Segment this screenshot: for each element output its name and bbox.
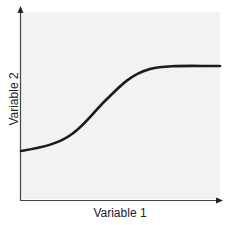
y-axis-label: Variable 2 (7, 64, 21, 134)
x-axis-label: Variable 1 (60, 206, 180, 220)
plot-area (21, 12, 220, 199)
y-axis-arrow-icon (18, 6, 24, 13)
sigmoid-chart (0, 0, 226, 225)
